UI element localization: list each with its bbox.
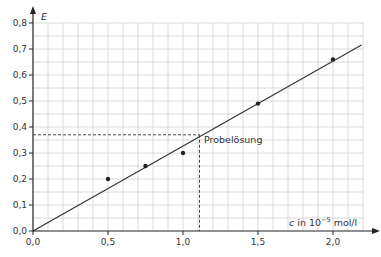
y-tick-label: 0,6 <box>13 70 28 80</box>
x-tick-label: 1,0 <box>176 237 191 247</box>
y-tick-label: 0,3 <box>13 148 27 158</box>
data-points <box>106 57 335 181</box>
grid <box>33 23 364 231</box>
fit-line <box>33 45 362 231</box>
x-axis-label: c in 10−5 mol/l <box>289 216 357 228</box>
x-tick-label: 0,0 <box>26 237 41 247</box>
data-point <box>256 101 260 105</box>
data-point <box>181 151 185 155</box>
probe-solution-label: Probelösung <box>204 134 262 145</box>
y-axis-arrow-icon <box>30 6 36 14</box>
x-tick-label: 1,5 <box>251 237 265 247</box>
data-point <box>106 177 110 181</box>
axes <box>30 6 380 234</box>
y-tick-label: 0,1 <box>13 200 27 210</box>
y-tick-label: 0,4 <box>13 122 28 132</box>
y-tick-label: 0,7 <box>13 44 27 54</box>
y-tick-label: 0,5 <box>13 96 27 106</box>
x-tick-label: 0,5 <box>101 237 115 247</box>
calibration-chart: 0,00,10,20,30,40,50,60,70,8 0,00,51,01,5… <box>0 0 381 257</box>
x-tick-label: 2,0 <box>326 237 341 247</box>
y-tick-label: 0,2 <box>13 174 27 184</box>
y-tick-label: 0,0 <box>13 226 28 236</box>
y-axis-ticks: 0,00,10,20,30,40,50,60,70,8 <box>13 18 33 236</box>
y-axis-label: E <box>41 11 47 22</box>
regression-line <box>33 45 362 231</box>
x-axis-arrow-icon <box>372 228 380 234</box>
data-point <box>331 57 335 61</box>
y-tick-label: 0,8 <box>13 18 28 28</box>
x-axis-ticks: 0,00,51,01,52,0 <box>26 231 341 247</box>
data-point <box>143 164 147 168</box>
